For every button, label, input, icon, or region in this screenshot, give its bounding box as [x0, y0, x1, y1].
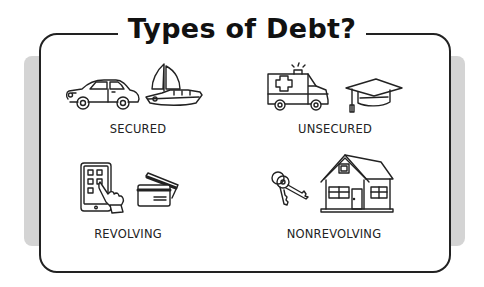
category-label-secured: SECURED: [98, 122, 178, 136]
keys-icon: [270, 170, 312, 216]
house-icon: [319, 152, 395, 218]
credit-cards-icon: [136, 172, 180, 214]
ambulance-icon: [266, 62, 332, 118]
category-label-revolving: REVOLVING: [86, 227, 170, 241]
title-container: Types of Debt?: [0, 12, 484, 46]
car-icon: [64, 77, 142, 117]
sailboat-icon: [144, 63, 206, 117]
page-title: Types of Debt?: [118, 12, 366, 46]
category-label-unsecured: UNSECURED: [290, 122, 380, 136]
graduation-cap-icon: [344, 77, 404, 121]
tablet-touch-icon: [80, 162, 130, 218]
category-label-nonrevolving: NONREVOLVING: [278, 227, 390, 241]
